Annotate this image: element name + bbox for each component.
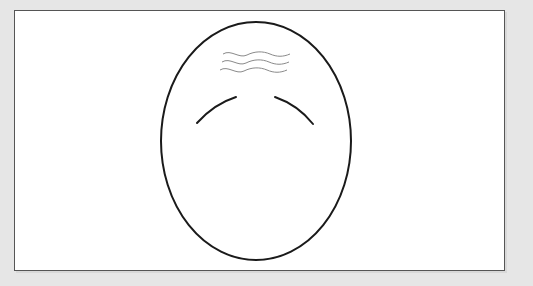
face-drawing [0, 0, 533, 286]
eyebrow-right [275, 97, 313, 124]
eyebrow-left [197, 97, 236, 123]
forehead-wrinkles-icon [220, 52, 290, 72]
wrinkle-line-2 [222, 60, 289, 64]
wrinkle-line-1 [223, 52, 290, 56]
wrinkle-line-3 [220, 68, 287, 72]
head-oval [161, 22, 351, 260]
